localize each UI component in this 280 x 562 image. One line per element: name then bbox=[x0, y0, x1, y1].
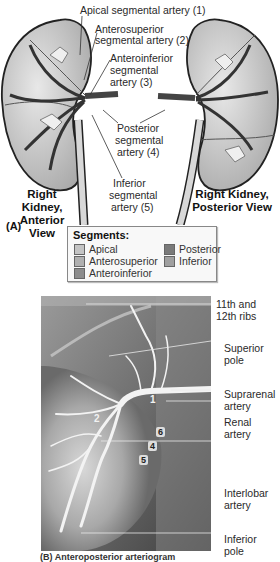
label-ribs: 11th and 12th ribs bbox=[216, 298, 256, 322]
label-anteroinferior-3: artery (3) bbox=[110, 76, 153, 88]
label-interlobar-artery: Interlobar artery bbox=[224, 487, 268, 511]
marker-6: 6 bbox=[156, 427, 165, 437]
legend-item-anteroinferior: Anteroinferior bbox=[74, 267, 152, 279]
label-anterosuperior-2: segmental artery (2) bbox=[95, 34, 189, 46]
marker-5: 5 bbox=[139, 455, 148, 465]
label-inferior-pole: Inferior pole bbox=[224, 533, 257, 557]
marker-2: 2 bbox=[94, 413, 100, 424]
label-superior-pole-line1: Superior bbox=[224, 342, 264, 354]
label-inferior-2: segmental bbox=[109, 189, 157, 201]
label-interlobar-line1: Interlobar bbox=[224, 487, 268, 499]
swatch-anteroinferior bbox=[74, 268, 85, 279]
label-posterior-3: artery (4) bbox=[117, 146, 160, 158]
legend-label: Anterosuperior bbox=[89, 255, 158, 267]
swatch-posterior bbox=[164, 244, 175, 255]
label-ribs-line2: 12th ribs bbox=[216, 310, 256, 322]
label-apical-segmental-artery: Apical segmental artery (1) bbox=[80, 4, 205, 16]
marker-1: 1 bbox=[150, 394, 156, 405]
label-superior-pole: Superior pole bbox=[224, 342, 264, 366]
legend-label: Posterior bbox=[179, 243, 221, 255]
swatch-inferior bbox=[164, 256, 175, 267]
label-anteroinferior-2: segmental bbox=[110, 64, 158, 76]
label-renal-artery: Renal artery bbox=[224, 416, 251, 440]
legend-item-apical: Apical bbox=[74, 243, 118, 255]
label-inferior-pole-line2: pole bbox=[224, 545, 257, 557]
arteriogram-image: 1 2 6 4 5 bbox=[41, 296, 211, 551]
legend-item-inferior: Inferior bbox=[164, 255, 212, 267]
view-posterior-line2: Posterior View bbox=[188, 201, 276, 214]
label-inferior-pole-line1: Inferior bbox=[224, 533, 257, 545]
legend-label: Inferior bbox=[179, 255, 212, 267]
label-ribs-line1: 11th and bbox=[216, 298, 256, 310]
arteriogram-drawing bbox=[41, 296, 211, 551]
panel-b-caption: (B) Anteroposterior arteriogram bbox=[40, 552, 175, 562]
swatch-anterosuperior bbox=[74, 256, 85, 267]
view-anterior-line1: Right Kidney, bbox=[6, 188, 78, 214]
legend-item-anterosuperior: Anterosuperior bbox=[74, 255, 158, 267]
label-suprarenal-line1: Suprarenal bbox=[224, 388, 275, 400]
label-inferior-1: Inferior bbox=[113, 177, 146, 189]
legend-item-posterior: Posterior bbox=[164, 243, 221, 255]
label-renal-line1: Renal bbox=[224, 416, 251, 428]
label-posterior-1: Posterior bbox=[117, 122, 159, 134]
label-suprarenal-artery: Suprarenal artery bbox=[224, 388, 275, 412]
label-interlobar-line2: artery bbox=[224, 499, 268, 511]
legend-label: Anteroinferior bbox=[89, 267, 152, 279]
label-suprarenal-line2: artery bbox=[224, 400, 275, 412]
legend-title: Segments: bbox=[73, 229, 129, 241]
legend-label: Apical bbox=[89, 243, 118, 255]
panel-a-tag: (A) bbox=[6, 220, 21, 232]
view-label-posterior: Right Kidney, Posterior View bbox=[188, 188, 276, 214]
label-anteroinferior-1: Anteroinferior bbox=[110, 52, 173, 64]
label-renal-line2: artery bbox=[224, 428, 251, 440]
marker-4: 4 bbox=[148, 441, 157, 451]
segments-legend: Segments: Apical Anterosuperior Anteroin… bbox=[67, 226, 217, 282]
label-inferior-3: artery (5) bbox=[111, 201, 154, 213]
label-posterior-2: segmental bbox=[115, 134, 163, 146]
swatch-apical bbox=[74, 244, 85, 255]
view-posterior-line1: Right Kidney, bbox=[188, 188, 276, 201]
label-superior-pole-line2: pole bbox=[224, 354, 264, 366]
